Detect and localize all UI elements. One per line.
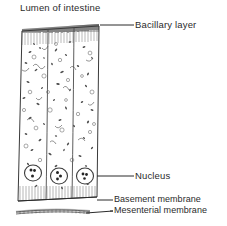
nucleus-left — [25, 165, 42, 181]
nucleus-label: Nucleus — [135, 171, 170, 181]
nucleus-right — [77, 168, 94, 184]
epithelium-drawing — [0, 0, 227, 226]
mesenterial-membrane-band — [16, 210, 90, 214]
bacillary-layer-label: Bacillary layer — [135, 20, 196, 30]
basement-membrane-label: Basement membrane — [114, 195, 201, 204]
intestinal-epithelium-figure: Lumen of intestine Bacillary layer Nucle… — [0, 0, 227, 226]
leader-mesenterial-membrane — [86, 211, 113, 213]
lumen-of-intestine-label: Lumen of intestine — [20, 3, 100, 13]
mesenterial-membrane-label: Mesenterial membrane — [114, 206, 207, 215]
nucleus-middle — [51, 168, 68, 184]
